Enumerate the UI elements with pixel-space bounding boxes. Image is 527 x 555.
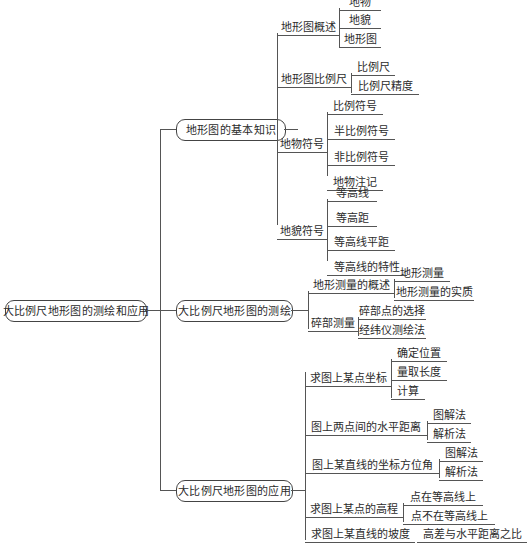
leaf-3-1-1[interactable]: 确定位置	[391, 347, 447, 362]
sub-node-2-2[interactable]: 碎部测量	[308, 317, 358, 332]
branch-node-1[interactable]: 地形图的基本知识	[176, 119, 286, 141]
spine-sub-1-3	[327, 112, 328, 176]
leaf-2-2-1[interactable]: 碎部点的选择	[358, 305, 426, 320]
connector-branch-1	[160, 129, 176, 130]
sub-node-3-3[interactable]: 图上某直线的坐标方位角	[305, 459, 439, 474]
leaf-3-1-3[interactable]: 计算	[391, 385, 425, 400]
sub-node-3-5[interactable]: 求图上某直线的坡度	[305, 528, 415, 543]
sub-node-2-1[interactable]: 地形测量的概述	[308, 279, 394, 294]
branch-node-3[interactable]: 大比例尺地形图的应用	[176, 480, 293, 502]
leaf-1-1-3[interactable]: 地形图	[339, 33, 381, 48]
leaf-3-1-2[interactable]: 量取长度	[391, 366, 447, 381]
leaf-3-3-1[interactable]: 图解法	[439, 447, 483, 462]
leaf-1-2-2[interactable]: 比例尺精度	[351, 80, 419, 95]
branch-node-2[interactable]: 大比例尺地形图的测绘	[176, 300, 293, 322]
connector-branch-2-out	[291, 310, 308, 311]
connector-branch-3-out	[291, 490, 305, 491]
connector-branch-3	[160, 490, 176, 491]
connector-branch-1-out	[284, 129, 298, 130]
leaf-1-1-1[interactable]: 地物	[339, 0, 381, 11]
leaf-1-1-2[interactable]: 地貌	[339, 14, 381, 29]
leaf-1-2-1[interactable]: 比例尺	[351, 61, 395, 76]
sub-node-1-3[interactable]: 地物符号	[277, 138, 327, 153]
leaf-3-4-2[interactable]: 点不在等高线上	[403, 510, 495, 525]
leaf-2-1-2[interactable]: 地形测量的实质	[394, 286, 474, 301]
leaf-3-2-1[interactable]: 图解法	[427, 409, 471, 424]
sub-node-3-1[interactable]: 求图上某点坐标	[305, 372, 391, 387]
sub-node-1-4[interactable]: 地貌符号	[277, 225, 327, 240]
leaf-1-3-1[interactable]: 比例符号	[327, 100, 383, 115]
connector-root	[145, 310, 160, 311]
leaf-3-5-1[interactable]: 高差与水平距离之比	[417, 528, 527, 543]
root-node[interactable]: 大比例尺地形图的测绘和应用	[5, 300, 147, 322]
leaf-3-2-2[interactable]: 解析法	[427, 428, 471, 443]
sub-node-1-1[interactable]: 地形图概述	[277, 21, 339, 36]
leaf-1-4-3[interactable]: 等高线平距	[327, 236, 395, 251]
sub-node-3-2[interactable]: 图上两点间的水平距离	[305, 421, 427, 436]
leaf-1-3-2[interactable]: 半比例符号	[327, 125, 395, 140]
sub-node-3-4[interactable]: 求图上某点的高程	[305, 503, 403, 518]
spine-sub-1-4	[327, 199, 328, 261]
leaf-3-4-1[interactable]: 点在等高线上	[403, 491, 483, 506]
leaf-1-3-3[interactable]: 非比例符号	[327, 151, 395, 166]
spine-branch-1	[277, 33, 278, 225]
leaf-2-1-1[interactable]: 地形测量	[394, 267, 450, 282]
leaf-2-2-2[interactable]: 经纬仪测绘法	[358, 324, 426, 339]
leaf-3-3-2[interactable]: 解析法	[439, 466, 483, 481]
connector-branch-2	[160, 310, 176, 311]
leaf-1-4-1[interactable]: 等高线	[327, 187, 377, 202]
sub-node-1-2[interactable]: 地形图比例尺	[277, 73, 351, 88]
leaf-1-4-2[interactable]: 等高距	[327, 212, 377, 227]
